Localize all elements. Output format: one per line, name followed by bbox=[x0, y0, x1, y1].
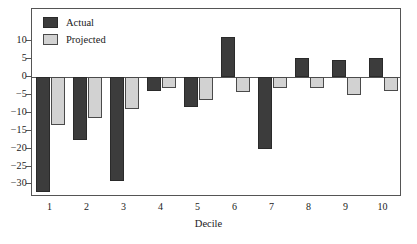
y-tick-label: 10 bbox=[17, 35, 27, 45]
x-tick-label: 4 bbox=[146, 201, 176, 212]
y-tick-label: −25 bbox=[11, 161, 27, 171]
bar-projected-decile-7 bbox=[273, 77, 287, 88]
legend-swatch-actual-icon bbox=[43, 17, 58, 28]
x-tick-label: 1 bbox=[35, 201, 65, 212]
y-tick-label: −10 bbox=[11, 107, 27, 117]
chart-legend: Actual Projected bbox=[43, 14, 106, 48]
legend-item-actual: Actual bbox=[43, 14, 106, 31]
bar-projected-decile-3 bbox=[125, 77, 139, 109]
y-tick-label: −5 bbox=[16, 89, 27, 99]
legend-item-projected: Projected bbox=[43, 31, 106, 48]
y-tick-label: −15 bbox=[11, 125, 27, 135]
y-tick-label: 5 bbox=[22, 53, 27, 63]
x-tick-label: 6 bbox=[220, 201, 250, 212]
x-tick-label: 5 bbox=[183, 201, 213, 212]
bar-projected-decile-8 bbox=[310, 77, 324, 88]
x-tick-label: 7 bbox=[257, 201, 287, 212]
bar-projected-decile-6 bbox=[236, 77, 250, 92]
bar-actual-decile-9 bbox=[332, 60, 346, 77]
bar-actual-decile-5 bbox=[184, 77, 198, 107]
legend-swatch-projected-icon bbox=[43, 34, 58, 45]
bar-actual-decile-7 bbox=[258, 77, 272, 149]
x-tick-label: 3 bbox=[109, 201, 139, 212]
x-tick-label: 9 bbox=[331, 201, 361, 212]
bar-actual-decile-1 bbox=[36, 77, 50, 192]
bar-actual-decile-8 bbox=[295, 58, 309, 77]
x-axis-title: Decile bbox=[0, 218, 417, 230]
x-tick-label: 2 bbox=[72, 201, 102, 212]
bar-actual-decile-10 bbox=[369, 58, 383, 77]
bar-projected-decile-2 bbox=[88, 77, 102, 118]
bar-chart: 1050−5−10−15−20−25−30 12345678910 Decile… bbox=[0, 0, 417, 244]
x-tick-label: 8 bbox=[294, 201, 324, 212]
bar-projected-decile-10 bbox=[384, 77, 398, 91]
bar-actual-decile-4 bbox=[147, 77, 161, 91]
bar-projected-decile-4 bbox=[162, 77, 176, 88]
y-tick-label: −20 bbox=[11, 143, 27, 153]
bar-projected-decile-9 bbox=[347, 77, 361, 95]
bar-actual-decile-3 bbox=[110, 77, 124, 181]
y-tick-label: 0 bbox=[22, 71, 27, 81]
x-tick-label: 10 bbox=[368, 201, 398, 212]
legend-label-projected: Projected bbox=[66, 34, 106, 45]
y-tick-label: −30 bbox=[11, 178, 27, 188]
bar-actual-decile-6 bbox=[221, 37, 235, 77]
bar-actual-decile-2 bbox=[73, 77, 87, 140]
bar-projected-decile-1 bbox=[51, 77, 65, 125]
legend-label-actual: Actual bbox=[66, 17, 94, 28]
bar-projected-decile-5 bbox=[199, 77, 213, 100]
